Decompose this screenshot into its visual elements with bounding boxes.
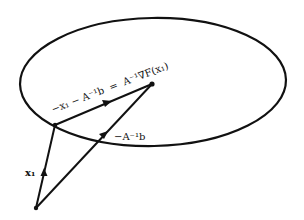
minimizer-point <box>149 81 154 86</box>
newton-step-diagram: x₁ −A⁻¹b −x₁ − A⁻¹b = A⁻¹∇F(x₁) <box>0 0 304 220</box>
vector-x1-line <box>36 125 55 208</box>
newton-step-label: −x₁ − A⁻¹b = A⁻¹∇F(x₁) <box>50 60 170 115</box>
origin-point <box>34 206 38 210</box>
svg-text:−x₁ − A⁻¹b = A⁻¹∇F: −x₁ − A⁻¹b = A⁻¹∇F(x₁) <box>50 60 170 115</box>
vector-x1-arrowhead-icon <box>41 168 48 176</box>
x1-point <box>53 123 57 127</box>
label-x1: x₁ <box>25 167 35 178</box>
label-step-rhs: A⁻¹∇F(x₁) <box>120 60 170 88</box>
label-equals: = <box>108 79 120 92</box>
label-step-lhs: −x₁ − A⁻¹b <box>50 85 106 115</box>
label-neg-ainv-b: −A⁻¹b <box>114 131 145 142</box>
newton-step-arrowhead-icon <box>102 100 112 107</box>
